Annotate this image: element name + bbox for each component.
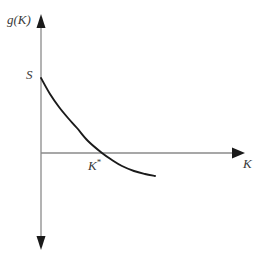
- x-axis-label: K: [243, 157, 252, 170]
- x-intercept-label: K*: [88, 158, 101, 172]
- y-intercept-label: S: [26, 68, 33, 81]
- coordinate-diagram: [0, 0, 262, 261]
- figure-container: g(K) K S K*: [0, 0, 262, 261]
- x-intercept-star-icon: *: [97, 157, 102, 167]
- y-axis-label: g(K): [7, 13, 31, 26]
- x-intercept-letter: K: [88, 158, 97, 173]
- y-axis-up-arrow-icon: [37, 14, 46, 28]
- y-axis-down-arrow-icon: [37, 236, 46, 250]
